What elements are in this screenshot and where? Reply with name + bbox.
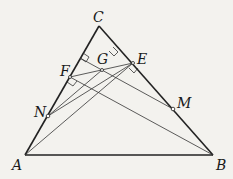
label-n: N bbox=[33, 104, 47, 120]
label-b: B bbox=[215, 157, 226, 173]
label-g: G bbox=[97, 51, 108, 67]
label-m: M bbox=[176, 95, 192, 111]
side-ca bbox=[25, 26, 99, 155]
point-m bbox=[171, 107, 175, 111]
right-angle-marker-f bbox=[67, 81, 77, 86]
right-angle-marker-cb bbox=[109, 47, 118, 56]
side-bc bbox=[99, 26, 213, 155]
label-c: C bbox=[93, 9, 104, 25]
segment-fm bbox=[80, 58, 173, 109]
triangle-diagram: C G E F N M A B bbox=[0, 0, 233, 179]
point-g bbox=[101, 69, 104, 72]
label-f: F bbox=[59, 63, 71, 79]
point-n bbox=[46, 114, 50, 118]
point-e bbox=[132, 62, 135, 65]
label-e: E bbox=[136, 51, 147, 67]
label-a: A bbox=[10, 157, 22, 173]
segment-ng bbox=[48, 70, 102, 116]
